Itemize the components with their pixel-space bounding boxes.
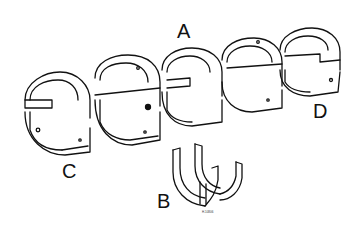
thrust-washers-b [173, 144, 242, 206]
label-c: C [62, 160, 76, 183]
bearing-2 [95, 55, 160, 145]
reference-number: H.10806 [202, 210, 213, 214]
bearing-d [280, 28, 340, 96]
label-d: D [313, 100, 327, 123]
label-a: A [177, 20, 190, 43]
bearing-a [162, 48, 222, 126]
label-b: B [157, 190, 170, 213]
bearing-4 [222, 38, 282, 112]
bearing-c [25, 72, 90, 155]
